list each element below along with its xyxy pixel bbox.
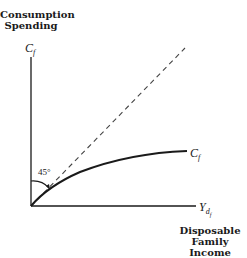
angle-label: 45° — [38, 167, 51, 177]
x-axis-symbol-main: Y — [199, 200, 206, 214]
curve-label: Cf — [190, 146, 200, 162]
curve-label-main: C — [190, 146, 198, 160]
curve-label-sub: f — [198, 153, 200, 162]
angle-arc — [31, 181, 49, 188]
x-axis-symbol-subsub: f — [210, 212, 212, 218]
forty-five-degree-line — [31, 48, 185, 206]
consumption-curve — [31, 151, 187, 206]
x-axis-label-line2: Family Income — [173, 236, 247, 258]
x-axis-label: Disposable Family Income — [173, 225, 247, 258]
x-axis-label-line1: Disposable — [173, 225, 247, 236]
x-axis-symbol: Ydf — [199, 200, 211, 218]
